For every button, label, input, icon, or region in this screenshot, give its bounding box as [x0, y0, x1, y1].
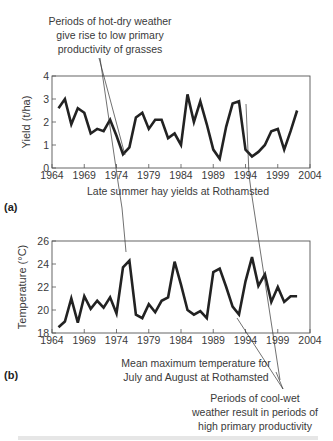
x-tick-label: 1989 [202, 334, 226, 346]
panel-b-y-axis: 1820222426 [37, 235, 56, 339]
panel-a-y-axis: 01234 [43, 70, 56, 174]
x-tick-label: 1964 [40, 169, 64, 181]
y-tick-label: 24 [37, 258, 49, 270]
annotation-cool-wet-line1: Periods of cool-wet [210, 392, 299, 404]
x-tick-label: 2004 [298, 334, 322, 346]
x-tick-label: 1994 [234, 169, 258, 181]
cut-off-caption [18, 436, 318, 440]
figure: Periods of hot-dry weather give rise to … [0, 0, 333, 441]
x-tick-label: 1969 [73, 169, 97, 181]
annotation-cool-wet-line3: high primary productivity [198, 420, 313, 432]
x-tick-label: 2004 [298, 169, 322, 181]
panel-b-x-axis: 196419691974197919841989199419992004 [40, 329, 322, 346]
y-tick-label: 22 [37, 281, 49, 293]
x-tick-label: 1984 [169, 169, 193, 181]
x-tick-label: 1984 [169, 334, 193, 346]
annotation-hot-dry: Periods of hot-dry weather give rise to … [48, 15, 172, 55]
annotation-hot-dry-line3: productivity of grasses [58, 43, 162, 55]
panel-b-plot: 1820222426 19641969197419791984198919941… [16, 235, 322, 346]
panel-a-plot: 01234 1964196919741979198419891994199920… [20, 70, 322, 181]
panel-a-label: (a) [4, 201, 18, 213]
y-tick-label: 20 [37, 304, 49, 316]
y-tick-label: 2 [43, 116, 49, 128]
x-tick-label: 1964 [40, 334, 64, 346]
panel-b-label: (b) [4, 369, 18, 381]
panel-b-y-label: Temperature (°C) [16, 245, 28, 329]
y-tick-label: 1 [43, 139, 49, 151]
x-tick-label: 1989 [202, 169, 226, 181]
x-tick-label: 1999 [266, 169, 290, 181]
x-tick-label: 1979 [137, 169, 161, 181]
y-tick-label: 4 [43, 70, 49, 82]
panel-a-frame [52, 76, 310, 168]
x-tick-label: 1969 [73, 334, 97, 346]
y-tick-label: 3 [43, 93, 49, 105]
panel-a-caption: Late summer hay yields at Rothamsted [87, 185, 269, 197]
x-tick-label: 1974 [105, 334, 129, 346]
yield-series-line [59, 94, 298, 158]
x-tick-label: 1999 [266, 334, 290, 346]
panel-b-caption-line1: Mean maximum temperature for [121, 357, 271, 369]
panel-b-caption-line2: July and August at Rothamsted [123, 371, 268, 383]
y-tick-label: 26 [37, 235, 49, 247]
panel-a-x-axis: 196419691974197919841989199419992004 [40, 164, 322, 181]
panel-a-y-label: Yield (t/ha) [20, 96, 32, 149]
annotation-hot-dry-line2: give rise to low primary [56, 29, 164, 41]
annotation-hot-dry-line1: Periods of hot-dry weather [48, 15, 172, 27]
annotation-cool-wet-line2: weather result in periods of [191, 406, 318, 418]
temperature-series-line [59, 257, 298, 327]
x-tick-label: 1979 [137, 334, 161, 346]
annotation-cool-wet: Periods of cool-wet weather result in pe… [191, 392, 318, 432]
